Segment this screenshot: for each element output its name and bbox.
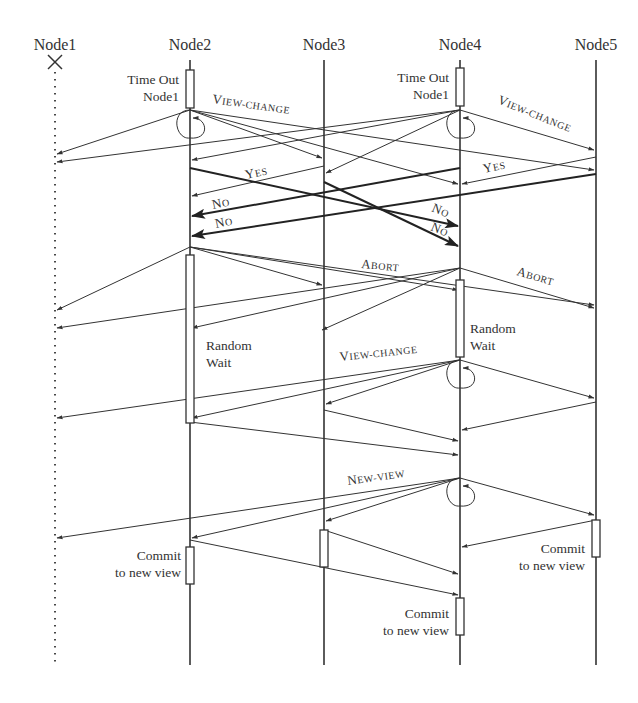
node3-commit-box xyxy=(320,530,328,567)
node4-commit-line1: Commit xyxy=(405,606,450,621)
node4-timeout-label-line2: Node1 xyxy=(413,87,449,102)
node4-label: Node4 xyxy=(439,36,482,53)
message-arrow-view-change-2 xyxy=(57,360,460,418)
view-change-label-3: VIEW-CHANGE xyxy=(339,341,418,364)
node5-commit-line1: Commit xyxy=(541,541,586,556)
message-arrow-abort xyxy=(322,268,460,330)
message-arrow-new-view xyxy=(192,478,460,538)
message-arrow-abort xyxy=(57,268,460,328)
message-arrow-view-change-2 xyxy=(192,360,460,418)
message-arrow-view-change-2 xyxy=(460,360,594,398)
message-arrow-new-view xyxy=(57,478,460,538)
node4-commit-line2: to new view xyxy=(383,623,449,638)
message-arrow-abort xyxy=(57,247,190,310)
node2-random-wait-box xyxy=(186,255,194,423)
abort-label-2: ABORT xyxy=(515,263,556,288)
yes-label-2: YES xyxy=(482,157,507,176)
message-arrow-view-change-1 xyxy=(326,110,460,173)
abort-label-1: ABORT xyxy=(361,256,400,274)
node4-random-wait-line1: Random xyxy=(470,321,516,336)
message-arrow-view-change-1 xyxy=(192,110,460,160)
node2-random-wait-line1: Random xyxy=(206,338,252,353)
node2-commit-box xyxy=(186,547,194,584)
message-arrow-new-view xyxy=(460,478,594,515)
node2-timeout-box xyxy=(186,70,194,108)
node5-commit-box xyxy=(592,520,600,557)
node1-label: Node1 xyxy=(34,36,77,53)
node4-random-wait-box xyxy=(456,280,464,357)
node4-timeout-label-line1: Time Out xyxy=(397,70,449,85)
message-arrow-view-change-2 xyxy=(462,402,596,430)
node-headers: Node1 Node2 Node3 Node4 Node5 xyxy=(34,36,618,53)
message-arrow-no xyxy=(192,168,460,216)
message-arrow-view-change-2 xyxy=(326,360,460,404)
no-label-3: NO xyxy=(430,200,452,221)
node2-timeout-label-line2: Node1 xyxy=(143,89,179,104)
message-arrow-new-view xyxy=(326,478,460,521)
message-arrow-view-change-1 xyxy=(190,110,322,158)
node2-label: Node2 xyxy=(169,36,212,53)
node5-commit-line2: to new view xyxy=(519,558,585,573)
node1-failed-marker xyxy=(48,55,62,69)
messages xyxy=(57,110,596,595)
node4-commit-box xyxy=(456,598,464,635)
message-arrow-abort xyxy=(192,268,460,328)
message-arrow-commit xyxy=(324,530,458,574)
node2-timeout-label-line1: Time Out xyxy=(127,72,179,87)
node2-commit-line1: Commit xyxy=(137,548,182,563)
node3-label: Node3 xyxy=(303,36,346,53)
message-arrow-view-change-2 xyxy=(324,410,458,441)
message-arrow-abort xyxy=(190,247,322,285)
view-change-label-2: VIEW-CHANGE xyxy=(496,92,574,135)
node5-label: Node5 xyxy=(575,36,618,53)
view-change-sequence-diagram: Node1 Node2 Node3 Node4 Node5 Time Out N xyxy=(0,0,638,703)
no-label-2: NO xyxy=(214,213,234,231)
node4-timeout-box xyxy=(456,68,464,106)
view-change-label-1: VIEW-CHANGE xyxy=(212,91,292,117)
new-view-label: NEW-VIEW xyxy=(346,465,405,488)
self-loops xyxy=(177,110,475,506)
node4-random-wait-line2: Wait xyxy=(470,338,495,353)
node2-random-wait-line2: Wait xyxy=(206,355,231,370)
message-labels: VIEW-CHANGE VIEW-CHANGE YES YES NO NO NO… xyxy=(211,91,575,488)
message-arrow-view-change-1 xyxy=(57,110,460,162)
node2-commit-line2: to new view xyxy=(115,565,181,580)
